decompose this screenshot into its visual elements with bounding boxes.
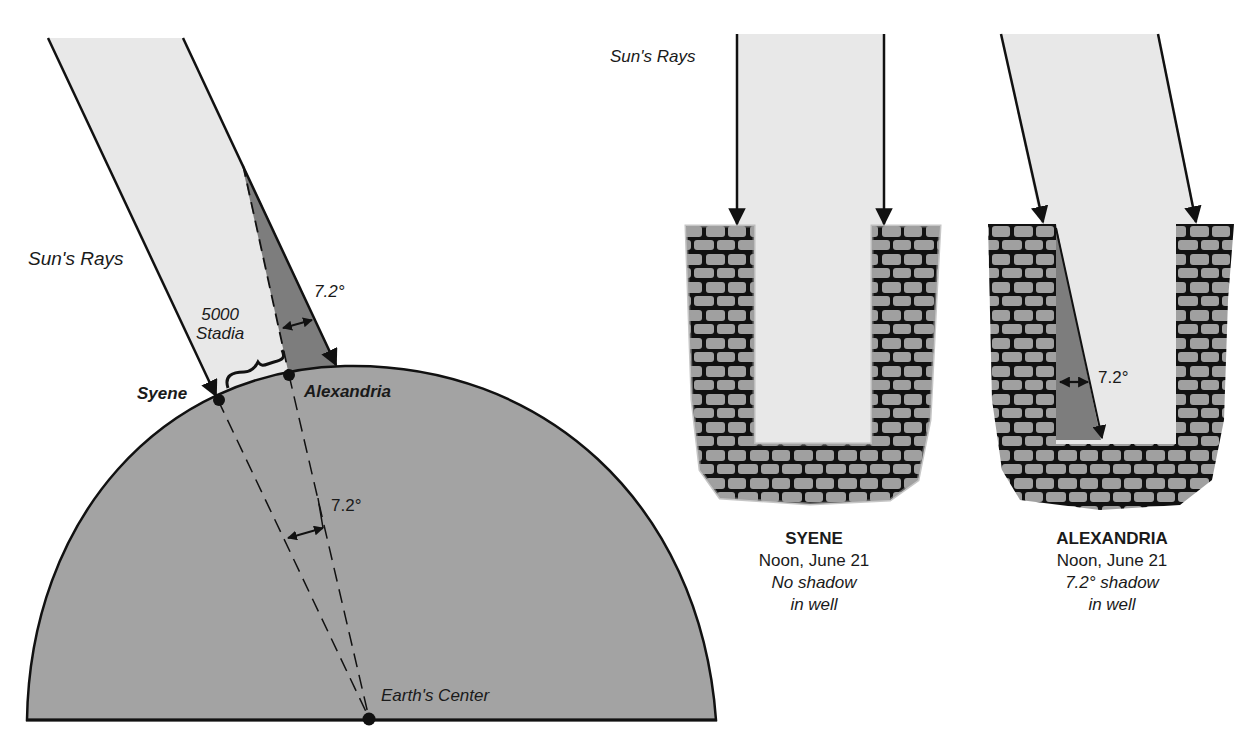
syene-well: [686, 34, 940, 504]
well-sun-rays-label: Sun's Rays: [610, 47, 695, 67]
alexandria-well-angle: 7.2°: [1098, 368, 1128, 388]
angle-top-label: 7.2°: [314, 282, 344, 302]
sun-rays-label: Sun's Rays: [28, 248, 124, 270]
distance-value: 5000: [196, 305, 244, 324]
alexandria-well: [988, 34, 1234, 510]
syene-rays-band: [738, 34, 884, 444]
alexandria-caption-note2: in well: [1012, 594, 1212, 616]
syene-label: Syene: [137, 384, 187, 404]
alexandria-caption: ALEXANDRIA Noon, June 21 7.2° shadow in …: [1012, 528, 1212, 616]
earth-center-dot: [363, 713, 376, 726]
earth-center-label: Earth's Center: [381, 686, 489, 706]
earth-shape: [27, 366, 716, 720]
alexandria-label: Alexandria: [304, 382, 391, 402]
angle-center-label: 7.2°: [331, 496, 361, 516]
alexandria-caption-note1: 7.2° shadow: [1012, 572, 1212, 594]
syene-caption-note1: No shadow: [714, 572, 914, 594]
distance-label: 5000 Stadia: [196, 305, 244, 343]
diagram-canvas: [0, 0, 1259, 734]
syene-caption-title: SYENE: [714, 528, 914, 550]
syene-caption-time: Noon, June 21: [714, 550, 914, 572]
syene-caption: SYENE Noon, June 21 No shadow in well: [714, 528, 914, 616]
alexandria-dot: [283, 369, 295, 381]
syene-caption-note2: in well: [714, 594, 914, 616]
syene-dot: [213, 394, 225, 406]
distance-unit: Stadia: [196, 324, 244, 343]
alexandria-caption-time: Noon, June 21: [1012, 550, 1212, 572]
alexandria-caption-title: ALEXANDRIA: [1012, 528, 1212, 550]
